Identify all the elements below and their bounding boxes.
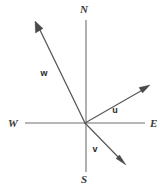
label-west: W	[8, 117, 19, 129]
vector-v-label: v	[92, 144, 97, 154]
vector-w-label: w	[39, 68, 48, 78]
label-north: N	[79, 3, 89, 15]
vector-diagram: N S W E u v w	[0, 0, 165, 188]
label-east: E	[149, 117, 157, 129]
vector-diagram-canvas: N S W E u v w	[0, 0, 165, 188]
diagram-background	[0, 0, 165, 188]
label-south: S	[81, 173, 87, 185]
vector-u-label: u	[112, 105, 118, 115]
